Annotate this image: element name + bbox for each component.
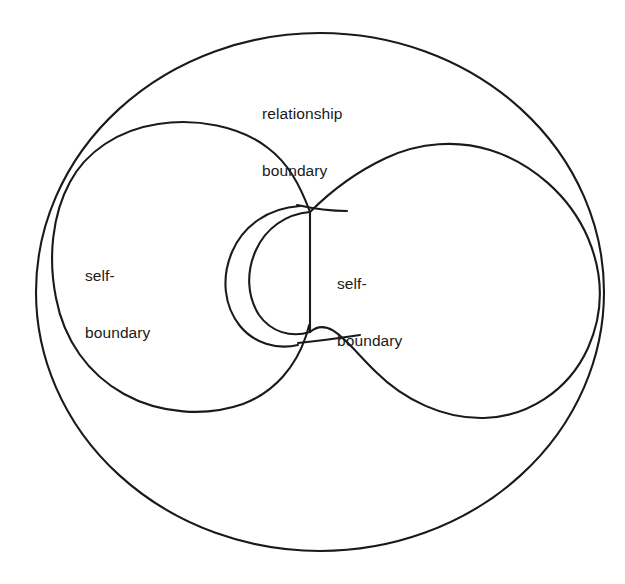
relationship-boundary-label-line1: relationship	[262, 104, 342, 123]
right-self-boundary-label: self- boundary	[337, 236, 402, 388]
right-self-boundary-label-line1: self-	[337, 274, 402, 293]
right-self-boundary-crescent-outer-arc	[225, 206, 300, 347]
relationship-boundary-label: relationship boundary	[262, 66, 342, 218]
relationship-boundary-label-line2: boundary	[262, 161, 342, 180]
diagram-canvas: relationship boundary self- boundary sel…	[0, 0, 625, 584]
left-self-boundary-label: self- boundary	[85, 228, 150, 380]
right-self-boundary-crescent-inner-arc	[249, 212, 310, 334]
right-self-boundary-label-line2: boundary	[337, 331, 402, 350]
left-self-boundary-label-line2: boundary	[85, 323, 150, 342]
left-self-boundary-label-line1: self-	[85, 266, 150, 285]
